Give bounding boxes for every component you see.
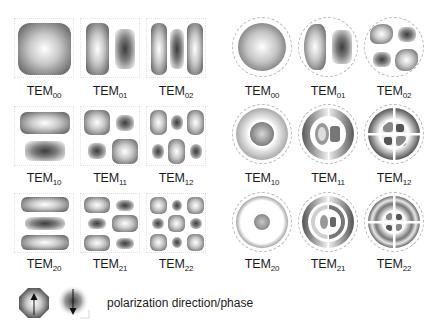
mode-circular-tem12	[364, 104, 424, 164]
mode-circular-tem02	[364, 17, 424, 77]
label-square-tem12: TEM12	[143, 171, 209, 187]
label-circular-tem12: TEM12	[361, 171, 427, 187]
legend-text: polarization direction/phase	[107, 296, 253, 310]
mode-circular-tem00	[232, 17, 292, 77]
mode-circular-tem10	[232, 104, 292, 164]
label-square-tem00: TEM00	[11, 84, 77, 100]
mode-circular-tem11	[298, 104, 358, 164]
label-square-tem11: TEM11	[77, 171, 143, 187]
mode-square-tem22	[146, 193, 206, 253]
label-square-tem21: TEM21	[77, 257, 143, 273]
label-square-tem22: TEM22	[143, 257, 209, 273]
label-circular-tem22: TEM22	[361, 257, 427, 273]
mode-square-tem00	[14, 18, 74, 78]
label-circular-tem20: TEM20	[229, 257, 295, 273]
mode-square-tem12	[146, 106, 206, 166]
label-circular-tem10: TEM10	[229, 171, 295, 187]
label-square-tem02: TEM02	[143, 84, 209, 100]
polarization-down-icon	[56, 285, 90, 319]
label-circular-tem01: TEM01	[295, 84, 361, 100]
label-circular-tem11: TEM11	[295, 171, 361, 187]
label-square-tem01: TEM01	[77, 84, 143, 100]
mode-square-tem10	[14, 106, 74, 166]
mode-square-tem01	[80, 18, 140, 78]
mode-circular-tem22	[364, 192, 424, 252]
mode-square-tem02	[146, 18, 206, 78]
mode-square-tem21	[80, 193, 140, 253]
label-circular-tem00: TEM00	[229, 84, 295, 100]
label-square-tem20: TEM20	[11, 257, 77, 273]
label-square-tem10: TEM10	[11, 171, 77, 187]
mode-square-tem20	[14, 193, 74, 253]
polarization-up-icon	[18, 287, 50, 319]
label-circular-tem21: TEM21	[295, 257, 361, 273]
mode-circular-tem21	[298, 192, 358, 252]
label-circular-tem02: TEM02	[361, 84, 427, 100]
mode-circular-tem01	[298, 17, 358, 77]
mode-square-tem11	[80, 106, 140, 166]
mode-circular-tem20	[232, 192, 292, 252]
